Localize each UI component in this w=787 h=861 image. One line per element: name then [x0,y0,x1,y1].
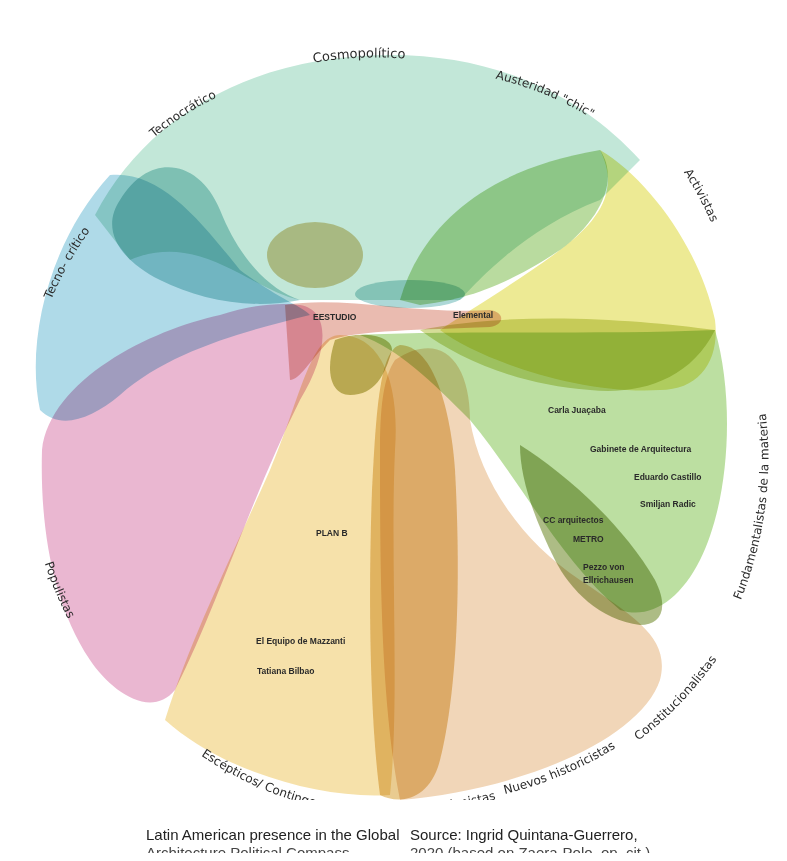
architect-el-equipo-de-mazzanti: El Equipo de Mazzanti [256,636,345,646]
caption-source-line1: Source: Ingrid Quintana-Guerrero, [410,826,638,843]
architect-elemental: Elemental [453,310,493,320]
caption-title-line1: Latin American presence in the Global [146,826,399,843]
architect-carla-juacaba: Carla Juaçaba [548,405,606,415]
political-compass-diagram: Cosmopolítico Austeridad "chic" Activist… [0,0,787,800]
label-activistas: Activistas [681,166,721,224]
architect-plan-b: PLAN B [316,528,348,538]
architect-eestudio: EESTUDIO [313,312,357,322]
architect-tatiana-bilbao: Tatiana Bilbao [257,666,314,676]
region-revisionistas [370,345,458,799]
caption-source: Source: Ingrid Quintana-Guerrero, 2020 (… [410,826,650,853]
architect-metro: METRO [573,534,604,544]
architect-cc-arquitectos: CC arquitectos [543,515,604,525]
region-center-tan [267,222,363,288]
region-center-blue [355,280,465,308]
architect-ellrichausen: Ellrichausen [583,575,634,585]
caption-source-line2: 2020 (based on Zaera-Polo, op. cit.) [410,844,650,853]
caption-title: Latin American presence in the Global Ar… [146,826,399,853]
architect-gabinete: Gabinete de Arquitectura [590,444,692,454]
architect-pezzo-von: Pezzo von [583,562,625,572]
caption-title-line2: Architecture Political Compass [146,844,399,853]
architect-smiljan-radic: Smiljan Radic [640,499,696,509]
label-fundamentalistas: Fundamentalistas de la materia [731,413,772,601]
architect-eduardo-castillo: Eduardo Castillo [634,472,702,482]
